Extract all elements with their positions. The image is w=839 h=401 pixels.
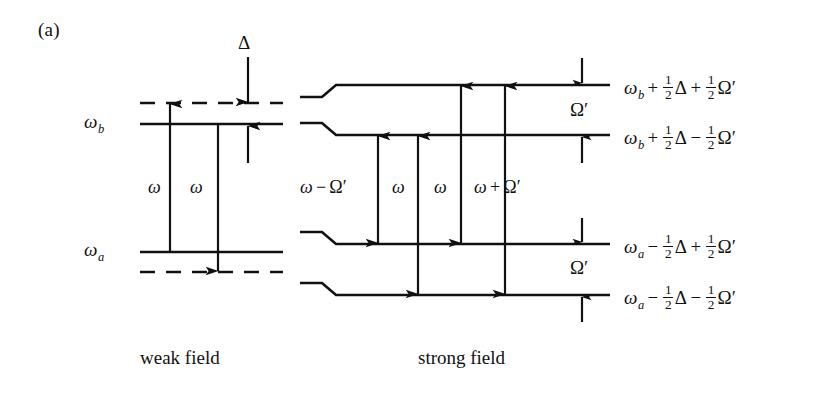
second-operator: −: [690, 287, 701, 308]
delta-symbol: Δ: [675, 127, 687, 148]
strong-transition-label-omega-center-b: ω: [434, 178, 447, 196]
dressed-level-1-label: ωb+12Δ+12Ω′: [624, 73, 736, 101]
denominator: 2: [706, 88, 716, 102]
delta-symbol: Δ: [675, 236, 687, 257]
omega-a-subscript: a: [98, 250, 104, 264]
one-half-fraction: 12: [706, 73, 716, 101]
base-subscript: b: [638, 138, 644, 152]
denominator: 2: [663, 88, 673, 102]
numerator: 1: [706, 123, 716, 138]
one-half-fraction: 12: [663, 283, 673, 311]
omega-b-subscript: b: [98, 122, 104, 136]
one-half-fraction: 12: [663, 73, 673, 101]
base-subscript: a: [638, 298, 644, 312]
diagram-canvas: [0, 0, 839, 401]
base-subscript: b: [638, 88, 644, 102]
numerator: 1: [663, 283, 673, 298]
minus-operator: −: [316, 177, 326, 197]
numerator: 1: [663, 73, 673, 88]
numerator: 1: [706, 73, 716, 88]
first-operator: −: [648, 287, 659, 308]
rabi-symbol: Ω′: [718, 287, 736, 308]
first-operator: +: [648, 77, 659, 98]
rabi-symbol: Ω′: [503, 177, 520, 197]
dressed-level-2-line: [300, 123, 610, 135]
denominator: 2: [706, 138, 716, 152]
first-operator: −: [648, 236, 659, 257]
one-half-fraction: 12: [663, 232, 673, 260]
strong-transition-label-omega-center-a: ω: [392, 178, 405, 196]
delta-symbol: Δ: [675, 287, 687, 308]
strong-transition-label-omega-plus-rabi: ω+Ω′: [474, 178, 521, 196]
panel-label: (a): [38, 20, 60, 39]
rabi-symbol: Ω′: [718, 77, 736, 98]
numerator: 1: [663, 123, 673, 138]
weak-field-levels: [140, 103, 283, 272]
one-half-fraction: 12: [706, 283, 716, 311]
denominator: 2: [663, 298, 673, 312]
denominator: 2: [706, 298, 716, 312]
denominator: 2: [663, 138, 673, 152]
one-half-fraction: 12: [663, 123, 673, 151]
rabi-symbol: Ω′: [718, 127, 736, 148]
denominator: 2: [706, 247, 716, 261]
second-operator: +: [690, 77, 701, 98]
omega-b-symbol: ω: [84, 111, 97, 132]
energy-level-diagram-figure: (a) ωb ωa Δ ω ω ω−Ω′ ω ω ω+Ω′ Ω′ Ω′ ωb+1…: [0, 0, 839, 401]
omega-symbol: ω: [300, 177, 313, 197]
strong-transition-label-omega-minus-rabi: ω−Ω′: [300, 178, 347, 196]
numerator: 1: [706, 283, 716, 298]
detuning-label: Δ: [238, 33, 250, 52]
omega-symbol: ω: [474, 177, 487, 197]
second-operator: +: [690, 236, 701, 257]
dressed-level-4-line: [300, 283, 610, 295]
upper-splitting-label: Ω′: [570, 100, 588, 119]
dressed-level-1-line: [300, 85, 610, 97]
one-half-fraction: 12: [706, 232, 716, 260]
weak-transition-label-absorption: ω: [148, 178, 161, 196]
base-symbol: ω: [624, 127, 637, 148]
numerator: 1: [706, 232, 716, 247]
weak-level-label-omega-b: ωb: [84, 112, 104, 135]
numerator: 1: [663, 232, 673, 247]
dressed-level-2-label: ωb+12Δ−12Ω′: [624, 123, 736, 151]
plus-operator: +: [490, 177, 500, 197]
base-symbol: ω: [624, 287, 637, 308]
dressed-level-4-label: ωa−12Δ−12Ω′: [624, 283, 736, 311]
caption-strong-field: strong field: [418, 348, 505, 367]
rabi-symbol: Ω′: [718, 236, 736, 257]
one-half-fraction: 12: [706, 123, 716, 151]
weak-level-label-omega-a: ωa: [84, 240, 104, 263]
first-operator: +: [648, 127, 659, 148]
caption-weak-field: weak field: [140, 348, 220, 367]
weak-transition-label-emission: ω: [190, 178, 203, 196]
omega-a-symbol: ω: [84, 239, 97, 260]
base-symbol: ω: [624, 236, 637, 257]
rabi-symbol: Ω′: [329, 177, 346, 197]
denominator: 2: [663, 247, 673, 261]
base-subscript: a: [638, 247, 644, 261]
base-symbol: ω: [624, 77, 637, 98]
second-operator: −: [690, 127, 701, 148]
delta-symbol: Δ: [675, 77, 687, 98]
dressed-level-3-line: [300, 232, 610, 244]
dressed-level-3-label: ωa−12Δ+12Ω′: [624, 232, 736, 260]
lower-splitting-label: Ω′: [570, 258, 588, 277]
